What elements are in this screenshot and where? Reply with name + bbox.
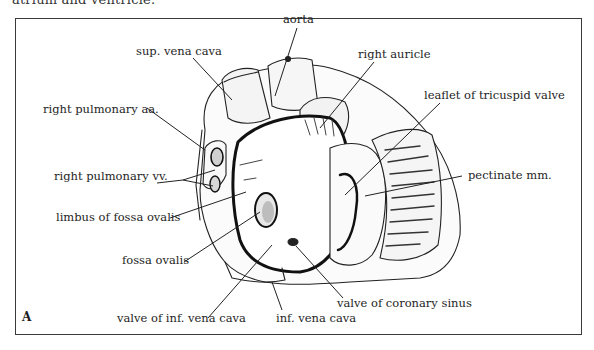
label-leaflet-tricuspid: leaflet of tricuspid valve xyxy=(424,88,565,102)
label-aorta: aorta xyxy=(283,12,314,26)
label-inf-vena-cava: inf. vena cava xyxy=(276,311,356,325)
panel-letter: A xyxy=(22,310,31,324)
label-right-auricle: right auricle xyxy=(358,47,431,61)
label-pectinate-mm: pectinate mm. xyxy=(468,168,552,182)
label-right-pulmonary-aa: right pulmonary aa. xyxy=(43,102,159,116)
label-fossa-ovalis: fossa ovalis xyxy=(122,253,189,267)
label-right-pulmonary-vv: right pulmonary vv. xyxy=(54,169,168,183)
label-valve-coronary-sinus: valve of coronary sinus xyxy=(337,296,472,310)
label-sup-vena-cava: sup. vena cava xyxy=(136,44,222,58)
label-valve-inf-vena-cava: valve of inf. vena cava xyxy=(117,311,246,325)
label-limbus-fossa-ovalis: limbus of fossa ovalis xyxy=(56,210,180,224)
